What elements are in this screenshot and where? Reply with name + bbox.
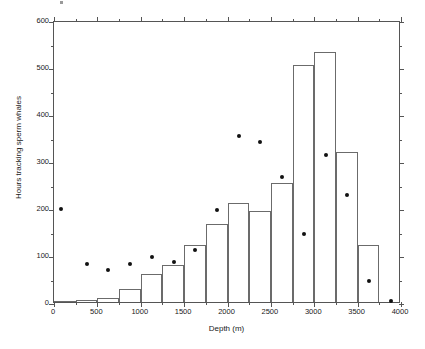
- histogram-bar: [184, 245, 206, 302]
- scatter-point: [150, 255, 154, 259]
- y-tick-label-500: 500: [36, 64, 49, 72]
- y-tick-label-0: 0: [45, 299, 49, 307]
- y-tick-label-group: 0100200300400500600: [24, 21, 49, 303]
- scatter-point: [106, 268, 110, 272]
- x-minor-tick-2750: [293, 302, 294, 305]
- histogram-bar: [358, 245, 380, 302]
- scatter-point: [172, 260, 176, 264]
- x-minor-tick-1750: [206, 302, 207, 305]
- histogram-bar: [162, 265, 184, 302]
- y-axis-title: Hours tracking sperm whales: [14, 48, 23, 248]
- histogram-bar: [141, 274, 163, 302]
- y-tick-500: [49, 69, 54, 70]
- chart-figure: Hours tracking sperm whales 010020030040…: [0, 0, 425, 349]
- scatter-point: [85, 262, 89, 266]
- x-minor-tick-750: [119, 302, 120, 305]
- scan-artifact-speck: [60, 1, 63, 4]
- y-minor-tick-50: [51, 281, 54, 282]
- y-minor-tick-550: [51, 46, 54, 47]
- x-tick-4000: [401, 17, 402, 22]
- y-tick-600: [399, 22, 404, 23]
- scatter-point: [302, 232, 306, 236]
- y-tick-200: [399, 210, 404, 211]
- scatter-point: [59, 207, 63, 211]
- y-tick-400: [399, 116, 404, 117]
- y-tick-100: [399, 257, 404, 258]
- histogram-bar: [76, 300, 98, 302]
- histogram-bar: [249, 211, 271, 302]
- x-axis-title: Depth (m): [53, 324, 400, 333]
- y-tick-label-600: 600: [36, 17, 49, 25]
- y-tick-200: [49, 210, 54, 211]
- x-minor-tick-3750: [379, 19, 380, 22]
- scatter-point: [193, 248, 197, 252]
- histogram-bar: [97, 298, 119, 302]
- x-tick-label-4000: 4000: [392, 308, 409, 316]
- x-tick-3500: [358, 17, 359, 22]
- x-minor-tick-1750: [206, 19, 207, 22]
- y-tick-300: [399, 163, 404, 164]
- histogram-bar: [206, 224, 228, 302]
- y-tick-300: [49, 163, 54, 164]
- y-minor-tick-250: [399, 187, 402, 188]
- histogram-bar: [119, 289, 141, 302]
- x-tick-2500: [271, 17, 272, 22]
- x-minor-tick-250: [76, 302, 77, 305]
- y-tick-label-300: 300: [36, 158, 49, 166]
- histogram-bar: [271, 183, 293, 302]
- y-minor-tick-350: [51, 140, 54, 141]
- x-tick-3000: [314, 17, 315, 22]
- scatter-point: [389, 299, 393, 303]
- x-minor-tick-3250: [336, 302, 337, 305]
- x-minor-tick-2250: [249, 302, 250, 305]
- x-tick-1500: [184, 17, 185, 22]
- plot-area: [53, 21, 400, 303]
- x-tick-label-1500: 1500: [175, 308, 192, 316]
- scatter-point: [367, 279, 371, 283]
- histogram-bar: [54, 301, 76, 302]
- y-tick-500: [399, 69, 404, 70]
- x-tick-label-0: 0: [51, 308, 55, 316]
- y-tick-100: [49, 257, 54, 258]
- scatter-point: [258, 140, 262, 144]
- y-minor-tick-350: [399, 140, 402, 141]
- scatter-point: [345, 193, 349, 197]
- scatter-point: [128, 262, 132, 266]
- y-minor-tick-50: [399, 281, 402, 282]
- x-tick-label-3500: 3500: [348, 308, 365, 316]
- x-minor-tick-3250: [336, 19, 337, 22]
- x-tick-label-500: 500: [90, 308, 103, 316]
- y-minor-tick-150: [51, 234, 54, 235]
- y-tick-label-200: 200: [36, 205, 49, 213]
- x-tick-500: [97, 17, 98, 22]
- y-minor-tick-450: [51, 93, 54, 94]
- x-tick-0: [54, 17, 55, 22]
- scatter-point: [324, 153, 328, 157]
- x-tick-1000: [141, 17, 142, 22]
- y-tick-600: [49, 22, 54, 23]
- x-minor-tick-2250: [249, 19, 250, 22]
- x-tick-label-2500: 2500: [262, 308, 279, 316]
- histogram-bar: [228, 203, 250, 302]
- x-minor-tick-2750: [293, 19, 294, 22]
- histogram-bar: [314, 52, 336, 302]
- x-tick-label-3000: 3000: [305, 308, 322, 316]
- y-minor-tick-550: [399, 46, 402, 47]
- x-minor-tick-250: [76, 19, 77, 22]
- y-minor-tick-150: [399, 234, 402, 235]
- y-tick-label-400: 400: [36, 111, 49, 119]
- scatter-point: [237, 134, 241, 138]
- x-minor-tick-1250: [162, 302, 163, 305]
- y-minor-tick-250: [51, 187, 54, 188]
- x-minor-tick-750: [119, 19, 120, 22]
- y-tick-label-100: 100: [36, 252, 49, 260]
- histogram-bar: [336, 152, 358, 302]
- scatter-point: [280, 175, 284, 179]
- histogram-bar: [293, 65, 315, 302]
- x-tick-label-2000: 2000: [218, 308, 235, 316]
- x-tick-label-1000: 1000: [131, 308, 148, 316]
- x-minor-tick-3750: [379, 302, 380, 305]
- x-minor-tick-1250: [162, 19, 163, 22]
- x-tick-2000: [228, 17, 229, 22]
- x-tick-label-group: 05001000150020002500300035004000: [53, 308, 400, 320]
